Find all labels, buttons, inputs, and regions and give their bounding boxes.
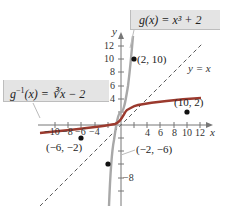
x-tick-label: 8 xyxy=(172,127,177,138)
point-label-10-2: (10, 2) xyxy=(174,96,203,108)
point-10-2 xyxy=(184,109,189,114)
g-function-label: g(x) = x³ + 2 xyxy=(130,10,220,30)
y-tick-label: 12 xyxy=(104,40,114,51)
y-tick-label: 10 xyxy=(104,53,114,64)
y-tick-label: 8 xyxy=(110,66,115,77)
x-tick-label: 4 xyxy=(145,127,150,138)
y-tick-label: 6 xyxy=(110,80,115,91)
y-axis-label: y xyxy=(112,25,117,37)
x-tick-label: −4 xyxy=(89,126,100,137)
y-tick-label: −8 xyxy=(123,172,134,183)
chart-plot-area xyxy=(0,0,234,216)
x-tick-label: 6 xyxy=(158,127,163,138)
x-tick-label: −6 xyxy=(75,126,86,137)
x-tick-label: 10 xyxy=(182,127,192,138)
point-2-10 xyxy=(131,56,136,61)
x-tick-label: −8 xyxy=(62,126,73,137)
point-label-m2-m6: (−2, −6) xyxy=(136,143,172,155)
point-label-m6-m2: (−6, −2) xyxy=(46,141,82,153)
x-axis-label: x xyxy=(210,126,215,138)
g-inverse-superscript: −1 xyxy=(16,86,25,95)
ginv-label-leader xyxy=(33,103,40,118)
point-label-2-10: (2, 10) xyxy=(137,53,166,65)
x-tick-label: −10 xyxy=(44,126,60,137)
g-inverse-text: (x) = ∛x − 2 xyxy=(25,87,86,101)
g-inverse-function-label: g−1(x) = ∛x − 2 xyxy=(3,80,109,102)
y-axis-arrow-icon xyxy=(118,32,124,39)
x-tick-label: 12 xyxy=(195,127,205,138)
y-tick-label: 4 xyxy=(110,93,115,104)
point-m2-m6 xyxy=(105,161,110,166)
g-function-text: g(x) = x³ + 2 xyxy=(139,13,201,27)
identity-label: y = x xyxy=(188,62,211,74)
